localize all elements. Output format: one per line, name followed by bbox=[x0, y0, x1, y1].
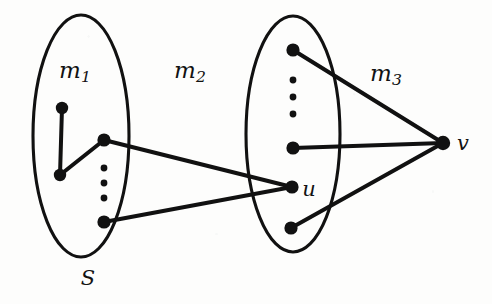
ellipsis-dot-right-set-4 bbox=[290, 94, 297, 101]
ellipsis-dot-right-set-3 bbox=[290, 77, 297, 84]
label-vertex-v: v bbox=[457, 133, 469, 154]
label-m3: m3 bbox=[370, 62, 402, 88]
vertex-s-mid bbox=[54, 169, 66, 181]
label-subscript: 1 bbox=[81, 67, 91, 86]
edge-t-top-to-v bbox=[293, 50, 443, 143]
label-set-s: S bbox=[81, 268, 95, 289]
ellipsis-dot-left-set-0 bbox=[101, 165, 108, 172]
label-vertex-u: u bbox=[302, 179, 316, 200]
graph-diagram-figure: m1 m2 m3 u v S bbox=[0, 0, 492, 304]
edge-s-top-to-s-mid bbox=[60, 108, 62, 175]
vertex-t-top bbox=[286, 43, 299, 56]
ellipsis-dot-right-set-5 bbox=[290, 111, 297, 118]
label-subscript: 2 bbox=[196, 67, 206, 86]
edge-s-hub-to-u bbox=[104, 140, 292, 187]
ellipsis-dot-left-set-1 bbox=[101, 180, 108, 187]
label-m2: m2 bbox=[174, 59, 206, 85]
vertex-s-hub bbox=[97, 133, 110, 146]
vertex-v bbox=[436, 136, 450, 150]
label-m1: m1 bbox=[59, 59, 91, 85]
edge-t-mid-to-v bbox=[293, 143, 443, 148]
vertex-t-mid bbox=[286, 141, 299, 154]
vertex-u bbox=[285, 180, 298, 193]
vertex-s-top bbox=[56, 102, 68, 114]
ellipsis-dot-left-set-2 bbox=[101, 195, 108, 202]
graph-canvas bbox=[0, 0, 492, 304]
vertex-s-bottom bbox=[97, 215, 110, 228]
edge-s-mid-to-s-hub bbox=[60, 140, 104, 175]
label-subscript: 3 bbox=[392, 70, 402, 89]
vertex-t-bottom bbox=[284, 221, 297, 234]
edge-s-bottom-to-u bbox=[104, 187, 292, 222]
